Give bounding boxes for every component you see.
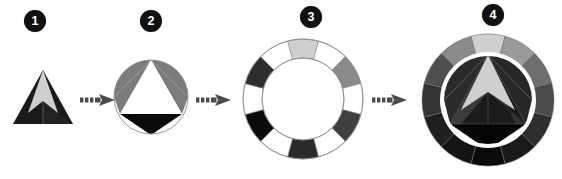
ring-segment — [287, 139, 318, 159]
ring-segment — [471, 145, 505, 166]
arrow-3-to-4 — [372, 92, 408, 108]
ring-segment — [287, 39, 318, 59]
figure-segmented-ring — [241, 37, 365, 161]
figure-circumscribed-triangle — [112, 58, 190, 136]
step-number-badge-3: 3 — [300, 6, 322, 28]
step-number-badge-1: 1 — [24, 10, 46, 32]
figure-triangle — [12, 68, 74, 126]
ring-segment — [243, 83, 263, 114]
step-number-badge-4: 4 — [482, 4, 504, 26]
ring-segment — [422, 83, 443, 117]
ring-segment — [533, 83, 554, 117]
arrow-2-to-3 — [196, 92, 232, 108]
ring-segment — [343, 83, 363, 114]
figure-composite-wheel — [420, 32, 556, 168]
step-number-badge-2: 2 — [140, 10, 162, 32]
ring-segment — [471, 34, 505, 55]
diagram-canvas: 1 2 — [0, 0, 562, 179]
arrow-1-to-2 — [80, 92, 116, 108]
